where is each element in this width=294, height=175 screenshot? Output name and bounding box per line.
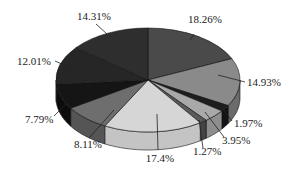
slice-label: 8.11% xyxy=(74,138,102,150)
slice-label: 17.4% xyxy=(146,152,174,164)
slice-label: 14.31% xyxy=(77,10,111,22)
slice-label: 18.26% xyxy=(188,13,222,25)
slice-label: 3.95% xyxy=(222,134,250,146)
slice-label: 14.93% xyxy=(247,76,281,88)
slice-label: 1.97% xyxy=(234,117,262,129)
pie-chart: 18.26%14.93%1.97%3.95%1.27%17.4%8.11%7.7… xyxy=(0,0,294,175)
pie-slices xyxy=(56,28,240,132)
slice-label: 7.79% xyxy=(25,113,53,125)
slice-label: 1.27% xyxy=(193,145,221,157)
slice-label: 12.01% xyxy=(17,55,51,67)
leader-line xyxy=(96,24,107,34)
